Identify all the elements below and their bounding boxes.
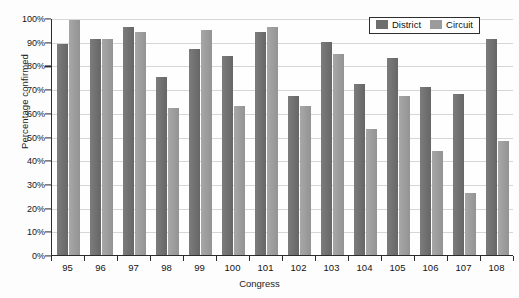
y-tick-label: 0% (1, 251, 45, 261)
x-tick-mark (51, 256, 52, 261)
bar-group (217, 19, 250, 255)
bar-group (349, 19, 382, 255)
y-tick-label: 70% (1, 85, 45, 95)
bar-district-99 (189, 49, 200, 255)
y-tick-label: 20% (1, 204, 45, 214)
bar-group (85, 19, 118, 255)
bar-circuit-108 (498, 141, 509, 255)
bar-district-97 (123, 27, 134, 255)
bar-circuit-101 (267, 27, 278, 255)
x-tick-label-100: 100 (216, 262, 250, 273)
x-tick-mark (480, 256, 481, 261)
bar-district-101 (255, 32, 266, 255)
x-tick-mark (117, 256, 118, 261)
bar-district-98 (156, 77, 167, 255)
bar-group (250, 19, 283, 255)
legend-entry-circuit: Circuit (430, 20, 473, 30)
bar-group (118, 19, 151, 255)
x-tick-label-95: 95 (51, 262, 85, 273)
bar-circuit-105 (399, 96, 410, 255)
bar-group (382, 19, 415, 255)
x-tick-label-107: 107 (447, 262, 481, 273)
x-tick-label-98: 98 (150, 262, 184, 273)
x-tick-label-106: 106 (414, 262, 448, 273)
bar-circuit-97 (135, 32, 146, 255)
chart-legend: District Circuit (369, 17, 480, 34)
x-tick-mark (216, 256, 217, 261)
y-tick-label: 30% (1, 180, 45, 190)
x-tick-label-96: 96 (84, 262, 118, 273)
bar-group (448, 19, 481, 255)
bar-circuit-103 (333, 54, 344, 255)
bar-group (52, 19, 85, 255)
y-tick-label: 40% (1, 156, 45, 166)
bar-circuit-96 (102, 39, 113, 255)
bar-district-102 (288, 96, 299, 255)
bar-circuit-98 (168, 108, 179, 255)
x-tick-mark (447, 256, 448, 261)
circuit-swatch-icon (430, 20, 442, 29)
x-tick-label-102: 102 (282, 262, 316, 273)
y-tick-label: 90% (1, 38, 45, 48)
bar-circuit-106 (432, 151, 443, 255)
x-tick-label-108: 108 (480, 262, 514, 273)
chart-page: Percentage confirmed Congress 0%10%20%30… (0, 0, 519, 298)
y-tick-label: 10% (1, 227, 45, 237)
bar-district-100 (222, 56, 233, 255)
bar-circuit-107 (465, 193, 476, 255)
bar-circuit-102 (300, 106, 311, 255)
y-tick-label: 100% (1, 14, 45, 24)
bar-circuit-100 (234, 106, 245, 255)
bar-district-105 (387, 58, 398, 255)
bar-circuit-99 (201, 30, 212, 255)
x-tick-mark (315, 256, 316, 261)
legend-entry-district: District (376, 20, 421, 30)
legend-label-district: District (392, 20, 421, 30)
bar-group (184, 19, 217, 255)
bar-group (283, 19, 316, 255)
x-tick-label-103: 103 (315, 262, 349, 273)
bar-group (316, 19, 349, 255)
x-tick-mark (183, 256, 184, 261)
bar-circuit-104 (366, 129, 377, 255)
x-axis-title: Congress (0, 278, 519, 289)
x-tick-label-104: 104 (348, 262, 382, 273)
x-tick-label-99: 99 (183, 262, 217, 273)
y-tick-label: 50% (1, 133, 45, 143)
x-tick-mark (513, 256, 514, 261)
x-tick-mark (249, 256, 250, 261)
x-tick-mark (414, 256, 415, 261)
x-tick-mark (381, 256, 382, 261)
bar-district-107 (453, 94, 464, 255)
x-tick-mark (150, 256, 151, 261)
bar-group (481, 19, 514, 255)
bar-district-108 (486, 39, 497, 255)
x-tick-label-97: 97 (117, 262, 151, 273)
x-tick-mark (348, 256, 349, 261)
legend-label-circuit: Circuit (446, 20, 473, 30)
bar-district-96 (90, 39, 101, 255)
bar-group (151, 19, 184, 255)
bar-district-104 (354, 84, 365, 255)
x-tick-label-101: 101 (249, 262, 283, 273)
y-tick-label: 60% (1, 109, 45, 119)
bar-group (415, 19, 448, 255)
y-tick-label: 80% (1, 61, 45, 71)
x-tick-mark (84, 256, 85, 261)
x-tick-label-105: 105 (381, 262, 415, 273)
bar-circuit-95 (69, 20, 80, 255)
bar-district-95 (57, 44, 68, 255)
x-tick-mark (282, 256, 283, 261)
bar-district-103 (321, 42, 332, 255)
plot-area (51, 19, 513, 256)
bar-district-106 (420, 87, 431, 255)
district-swatch-icon (376, 20, 388, 29)
